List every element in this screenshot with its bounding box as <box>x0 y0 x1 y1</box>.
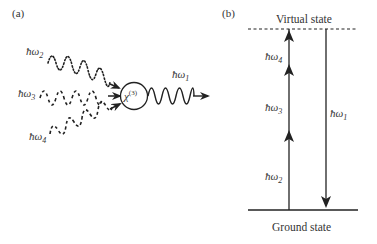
panel-a-label: (a) <box>12 7 25 20</box>
label-omega3-transition: ħω3 <box>265 101 282 116</box>
input-wave-omega3 <box>40 91 120 105</box>
label-omega1-transition: ħω1 <box>330 107 347 122</box>
label-omega4: ħω4 <box>29 130 46 145</box>
label-omega2: ħω2 <box>26 45 43 60</box>
label-omega1-output: ħω1 <box>172 68 189 83</box>
arrow-icon <box>110 84 119 88</box>
input-wave-omega2 <box>48 56 119 88</box>
upward-transition-arrow <box>284 29 294 210</box>
four-wave-mixing-diagram: (a) ħω2 ħω3 ħω4 χ(3) ħω1 (b) Virtual sta… <box>0 0 377 244</box>
label-omega3: ħω3 <box>18 87 35 102</box>
input-wave-omega4 <box>50 102 120 134</box>
output-wave-omega1 <box>148 88 208 104</box>
panel-b-label: (b) <box>222 7 235 20</box>
label-omega4-transition: ħω4 <box>265 50 282 65</box>
label-omega2-transition: ħω2 <box>265 170 282 185</box>
ground-state-label: Ground state <box>272 221 331 233</box>
virtual-state-label: Virtual state <box>276 13 332 25</box>
arrow-icon <box>110 104 120 109</box>
